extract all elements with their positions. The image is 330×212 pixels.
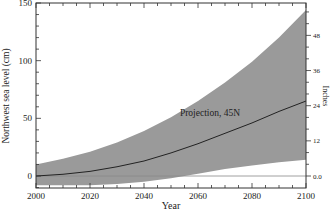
y-tick-label: 100 (19, 56, 33, 66)
x-axis-label: Year (162, 200, 181, 211)
band-area (36, 10, 306, 185)
x-tick-label: 2040 (135, 191, 154, 201)
y-tick-label: 150 (19, 0, 33, 8)
x-tick-label: 2080 (243, 191, 262, 201)
sea-level-chart: 200020202040206020802100 050100150 0.012… (0, 0, 330, 212)
y2-tick-label: 36 (313, 67, 321, 75)
x-tick-label: 2000 (27, 191, 46, 201)
y2-axis-label: Inches (321, 86, 330, 107)
y2-tick-label: 12 (313, 137, 321, 145)
y-axis-label: Northwest sea level (cm) (1, 48, 12, 143)
y-tick-label: 50 (23, 113, 33, 123)
y2-tick-label: 24 (313, 102, 321, 110)
y-axis-ticks: 050100150 (19, 0, 42, 188)
x-tick-label: 2100 (297, 191, 316, 201)
projection-annotation: Projection, 45N (180, 108, 240, 118)
x-tick-label: 2020 (81, 191, 100, 201)
uncertainty-band (36, 10, 306, 185)
y2-tick-label: 48 (313, 32, 321, 40)
x-tick-label: 2060 (189, 191, 208, 201)
y2-tick-label: 0.0 (313, 173, 322, 181)
y-tick-label: 0 (28, 171, 33, 181)
y2-axis-ticks: 0.012243648 (306, 12, 322, 181)
